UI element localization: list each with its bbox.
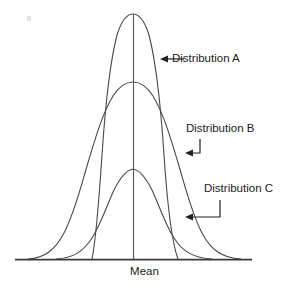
distribution-a-label: Distribution A bbox=[172, 53, 240, 65]
distribution-curves-figure: Distribution A Distribution B Distributi… bbox=[0, 0, 289, 293]
arrowhead-c bbox=[185, 214, 193, 221]
distribution-a-curve bbox=[92, 14, 178, 259]
mean-axis-label: Mean bbox=[0, 266, 289, 278]
scan-speck-artifact bbox=[27, 16, 31, 21]
arrowhead-a bbox=[160, 56, 168, 63]
arrowhead-b bbox=[185, 150, 193, 157]
distribution-c-label: Distribution C bbox=[204, 183, 273, 195]
distribution-plot-canvas bbox=[0, 0, 289, 293]
leader-line-b bbox=[185, 139, 200, 157]
distribution-b-label: Distribution B bbox=[186, 123, 254, 135]
distribution-b-curve bbox=[28, 82, 241, 259]
